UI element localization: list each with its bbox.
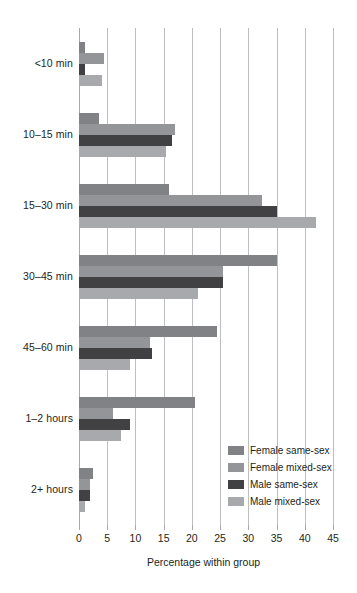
x-tick-mark bbox=[333, 525, 334, 530]
category-label: 1–2 hours bbox=[0, 412, 73, 424]
x-tick-label: 40 bbox=[299, 532, 311, 544]
bar-group bbox=[79, 113, 333, 157]
category-label: 30–45 min bbox=[0, 270, 73, 282]
x-axis-title-text: Percentage within group bbox=[147, 556, 260, 568]
x-tick-label: 45 bbox=[327, 532, 339, 544]
bar-group bbox=[79, 42, 333, 86]
legend-item: Female same-sex bbox=[228, 443, 348, 458]
x-axis-title: Percentage within group bbox=[0, 556, 357, 568]
bar bbox=[79, 146, 166, 157]
category-label: <10 min bbox=[0, 57, 73, 69]
bar bbox=[79, 206, 277, 217]
bar bbox=[79, 135, 172, 146]
x-tick-mark bbox=[220, 525, 221, 530]
bar-chart: <10 min10–15 min15–30 min30–45 min45–60 … bbox=[0, 0, 357, 593]
bar-group bbox=[79, 397, 333, 441]
bar bbox=[79, 53, 104, 64]
bar bbox=[79, 195, 262, 206]
bar bbox=[79, 359, 130, 370]
x-tick-mark bbox=[277, 525, 278, 530]
bar bbox=[79, 113, 99, 124]
x-tick-label: 5 bbox=[104, 532, 110, 544]
bar-group bbox=[79, 255, 333, 299]
x-tick-mark bbox=[248, 525, 249, 530]
x-tick-mark bbox=[192, 525, 193, 530]
bar bbox=[79, 124, 175, 135]
legend-item: Male same-sex bbox=[228, 477, 348, 492]
x-tick-label: 10 bbox=[130, 532, 142, 544]
bar bbox=[79, 64, 85, 75]
legend-swatch-icon bbox=[228, 480, 244, 489]
bar bbox=[79, 326, 217, 337]
bar bbox=[79, 288, 198, 299]
bar-group bbox=[79, 184, 333, 228]
bar bbox=[79, 75, 102, 86]
chart-legend: Female same-sexFemale mixed-sexMale same… bbox=[228, 443, 348, 511]
bar bbox=[79, 266, 223, 277]
x-tick-mark bbox=[79, 525, 80, 530]
legend-item: Female mixed-sex bbox=[228, 460, 348, 475]
bar bbox=[79, 184, 169, 195]
x-tick-label: 15 bbox=[158, 532, 170, 544]
bar bbox=[79, 255, 277, 266]
bar bbox=[79, 397, 195, 408]
bar bbox=[79, 419, 130, 430]
x-tick-mark bbox=[305, 525, 306, 530]
x-tick-label: 20 bbox=[186, 532, 198, 544]
category-label: 45–60 min bbox=[0, 341, 73, 353]
legend-swatch-icon bbox=[228, 446, 244, 455]
bar bbox=[79, 468, 93, 479]
legend-swatch-icon bbox=[228, 463, 244, 472]
category-label: 2+ hours bbox=[0, 483, 73, 495]
category-label: 10–15 min bbox=[0, 128, 73, 140]
legend-item: Male mixed-sex bbox=[228, 494, 348, 509]
bar bbox=[79, 42, 85, 53]
bar bbox=[79, 277, 223, 288]
bar bbox=[79, 490, 90, 501]
x-tick-label: 35 bbox=[271, 532, 283, 544]
bar-group bbox=[79, 326, 333, 370]
x-tick-label: 30 bbox=[242, 532, 254, 544]
x-tick-mark bbox=[164, 525, 165, 530]
bar bbox=[79, 430, 121, 441]
category-axis-labels: <10 min10–15 min15–30 min30–45 min45–60 … bbox=[0, 28, 73, 525]
x-tick-mark bbox=[135, 525, 136, 530]
x-tick-mark bbox=[107, 525, 108, 530]
bar bbox=[79, 479, 90, 490]
x-tick-label: 0 bbox=[76, 532, 82, 544]
legend-swatch-icon bbox=[228, 497, 244, 506]
legend-label: Female mixed-sex bbox=[250, 462, 332, 473]
legend-label: Male same-sex bbox=[250, 479, 318, 490]
bar bbox=[79, 337, 150, 348]
category-label: 15–30 min bbox=[0, 199, 73, 211]
bar bbox=[79, 408, 113, 419]
bar bbox=[79, 501, 85, 512]
x-tick-label: 25 bbox=[214, 532, 226, 544]
legend-label: Female same-sex bbox=[250, 445, 329, 456]
x-axis: 051015202530354045 bbox=[79, 525, 333, 549]
legend-label: Male mixed-sex bbox=[250, 496, 320, 507]
bar bbox=[79, 348, 152, 359]
bar bbox=[79, 217, 316, 228]
